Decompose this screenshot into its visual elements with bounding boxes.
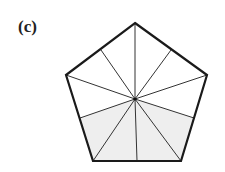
center-point xyxy=(134,98,137,101)
pentagon-diagram xyxy=(0,0,225,172)
